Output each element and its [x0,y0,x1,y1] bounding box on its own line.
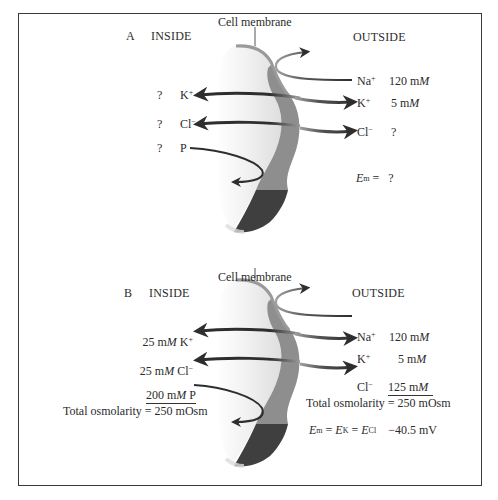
panel-a-k-inside-ion: K+ [180,88,193,102]
panel-b-cl-outside-ion: Cl− [357,380,373,394]
panel-b-cl-inside: 25 mM Cl− [60,364,193,378]
k-outside-arrow [295,98,352,102]
panel-a-k-inside-conc: ? [157,88,162,102]
panel-a-k-outside-conc: 5 mM [391,96,419,110]
panel-a-membrane-potential: Em = ? [356,171,394,185]
panel-b-p-inside: 200 mM P [146,388,196,402]
panel-a-cl-inside-ion: Cl− [180,117,196,131]
cl-outside-arrow [300,128,352,132]
panel-a-k-outside-ion: K+ [357,96,370,110]
panel-b-membrane-label: Cell membrane [218,270,292,284]
panel-b-na-outside-ion: Na+ [357,330,376,344]
na-arrow [276,52,352,80]
panel-b-k-outside-ion: K+ [357,352,370,366]
panel-b-inside-heading: INSIDE [149,286,190,300]
panel-a-na-outside-ion: Na+ [357,74,376,88]
panel-a-outside-heading: OUTSIDE [353,30,406,44]
panel-a-inside-heading: INSIDE [151,29,192,43]
panel-a-cl-outside-ion: Cl− [357,125,373,139]
panel-a-cl-inside-conc: ? [157,117,162,131]
panel-a-p-inside-conc: ? [157,141,162,155]
panel-b-outside-heading: OUTSIDE [352,286,405,300]
panel-a-cl-outside-conc: ? [391,125,396,139]
panel-b-na-outside-conc: 120 mM [389,330,429,344]
panel-b-k-inside: 25 mM K+ [60,335,193,349]
panel-a-na-outside-conc: 120 mM [389,74,429,88]
panel-b-cl-outside-conc: 125 mM [388,380,433,396]
panel-b-k-outside-conc: 5 mM [398,352,426,366]
panel-a-p-inside-ion: P [180,141,187,155]
panel-a-art [190,27,352,233]
panel-a-letter: A [126,29,135,43]
panel-b-inside-total-osmolarity: Total osmolarity = 250 mOsm [63,404,208,418]
panel-a-membrane-label: Cell membrane [218,15,292,29]
panel-b-equilibrium-equation: Em = EK = ECl−40.5 mV [309,423,437,437]
panel-b-letter: B [124,286,132,300]
panel-b-outside-total-osmolarity: Total osmolarity = 250 mOsm [306,396,451,410]
